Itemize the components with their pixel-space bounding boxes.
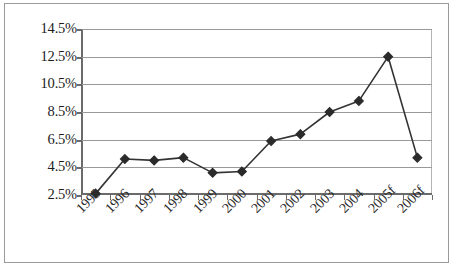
data-series-line [81,29,432,195]
series-line [96,57,418,194]
x-axis-tick [315,195,316,200]
data-point-marker [384,52,393,61]
plot-area [81,29,432,195]
data-point-marker [208,168,217,177]
y-axis-tick-label: 12.5% [17,49,77,64]
x-axis-tick [110,195,111,200]
y-axis-tick-label: 4.5% [17,159,77,174]
x-axis-tick [227,195,228,200]
x-axis-tick [257,195,258,200]
data-point-marker [150,156,159,165]
x-axis-tick [374,195,375,200]
x-axis-tick [432,195,433,200]
y-axis-labels: 2.5%4.5%6.5%8.5%10.5%12.5%14.5% [13,4,77,269]
x-axis-tick [344,195,345,200]
x-axis-tick [198,195,199,200]
data-point-marker [354,97,363,106]
x-axis-tick [81,195,82,200]
x-axis-tick [140,195,141,200]
y-axis-tick-label: 8.5% [17,104,77,119]
chart-frame: 2.5%4.5%6.5%8.5%10.5%12.5%14.5% 19951996… [4,3,449,263]
data-point-marker [179,153,188,162]
y-axis-tick-label: 6.5% [17,132,77,147]
x-axis-tick [169,195,170,200]
y-axis-tick-label: 2.5% [17,187,77,202]
x-axis-tick [286,195,287,200]
data-point-marker [413,153,422,162]
y-axis-tick-label: 10.5% [17,76,77,91]
y-axis-tick-label: 14.5% [17,21,77,36]
x-axis-tick [403,195,404,200]
